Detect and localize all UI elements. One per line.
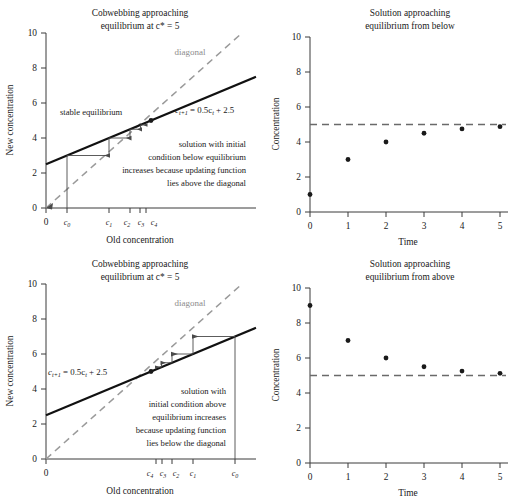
- panel-title-line1: Cobwebbing approaching: [92, 259, 189, 269]
- x-label-c0: c0: [232, 469, 239, 479]
- x-tick-label-0: 0: [308, 221, 313, 231]
- x-label-c0: c0: [64, 218, 71, 228]
- panel-title-line2: equilibrium at c* = 5: [101, 272, 180, 282]
- cobweb-arrow-1: [104, 153, 110, 158]
- x-tick-label-2: 2: [384, 472, 389, 482]
- data-point: [422, 364, 427, 369]
- equilibrium-point: [149, 118, 154, 123]
- y-tick-label-10: 10: [28, 279, 38, 289]
- data-point: [346, 338, 351, 343]
- y-axis-label: New concentration: [5, 84, 15, 155]
- data-point: [308, 303, 313, 308]
- x-tick-label-3: 3: [422, 472, 427, 482]
- annotation-line-5: lies below the diagonal: [147, 438, 227, 448]
- panel-title-line1: Solution approaching: [370, 8, 451, 18]
- x-tick-marks: [46, 208, 146, 213]
- x-label-c4: c4: [151, 218, 158, 228]
- y-tick-marks: [305, 288, 310, 463]
- y-axis-label: New concentration: [5, 335, 15, 406]
- x-label-c3: c3: [160, 469, 167, 479]
- y-tick-label-10: 10: [28, 28, 38, 38]
- diagonal-label: diagonal: [175, 298, 206, 308]
- x-tick-label-0: 0: [308, 472, 313, 482]
- data-point: [498, 371, 503, 376]
- cobweb-arrow-1: [192, 334, 199, 339]
- panel-title-line2: equilibrium at c* = 5: [101, 21, 180, 31]
- y-tick-label-2: 2: [296, 172, 301, 182]
- y-axis-label: Concentration: [271, 97, 281, 150]
- y-tick-label-4: 4: [296, 137, 301, 147]
- x-tick-label-zero: 0: [44, 468, 49, 478]
- x-tick-label-5: 5: [498, 472, 503, 482]
- data-point: [308, 192, 313, 197]
- y-tick-label-4: 4: [32, 133, 37, 143]
- x-tick-label-3: 3: [422, 221, 427, 231]
- annotation-line-1: solution with initial: [179, 139, 247, 149]
- x-tick-label-zero: 0: [44, 217, 49, 227]
- x-tick-label-4: 4: [460, 472, 465, 482]
- y-tick-label-0: 0: [32, 454, 37, 464]
- x-axis-label: Time: [398, 237, 417, 247]
- panel-title-line2: equilibrium from above: [365, 272, 454, 282]
- x-tick-marks: [310, 212, 500, 217]
- panel-bottom-left: Cobwebbing approaching equilibrium at c*…: [0, 251, 260, 502]
- data-point: [384, 140, 389, 145]
- y-tick-label-6: 6: [296, 353, 301, 363]
- diagonal-label: diagonal: [175, 47, 206, 57]
- panel-top-right: Solution approaching equilibrium from be…: [260, 0, 520, 251]
- x-tick-label-5: 5: [498, 221, 503, 231]
- x-label-c1: c1: [106, 218, 113, 228]
- figure-sheet: Cobwebbing approaching equilibrium at c*…: [0, 0, 520, 502]
- stable-equilibrium-label: stable equilibrium: [60, 107, 123, 117]
- y-tick-label-6: 6: [32, 349, 37, 359]
- data-point: [498, 124, 503, 129]
- x-axis-label: Old concentration: [106, 235, 174, 245]
- x-tick-label-1: 1: [346, 472, 351, 482]
- y-tick-label-4: 4: [32, 384, 37, 394]
- y-tick-label-8: 8: [296, 318, 301, 328]
- annotation-line-4: because updating function: [136, 425, 227, 435]
- data-point: [346, 157, 351, 162]
- scatter-points: [308, 124, 503, 197]
- data-point: [384, 356, 389, 361]
- cobweb-arrow-2: [171, 352, 178, 357]
- annotation-line-4: lies above the diagonal: [167, 178, 247, 188]
- x-label-c1: c1: [190, 469, 197, 479]
- y-tick-label-4: 4: [296, 388, 301, 398]
- panel-title-line1: Cobwebbing approaching: [92, 8, 189, 18]
- y-tick-label-2: 2: [296, 423, 301, 433]
- y-tick-label-6: 6: [32, 98, 37, 108]
- y-tick-label-8: 8: [32, 63, 37, 73]
- annotation-line-2: initial condition above: [149, 399, 227, 409]
- cobweb-arrow-3: [137, 127, 142, 131]
- data-point: [460, 369, 465, 374]
- y-tick-label-2: 2: [32, 419, 37, 429]
- equilibrium-point: [149, 369, 154, 374]
- x-tick-label-2: 2: [384, 221, 389, 231]
- x-tick-label-4: 4: [460, 221, 465, 231]
- x-label-c2: c2: [124, 218, 131, 228]
- y-tick-marks: [41, 33, 46, 208]
- x-label-c4: c4: [147, 469, 154, 479]
- y-tick-label-8: 8: [296, 67, 301, 77]
- panel-top-left: Cobwebbing approaching equilibrium at c*…: [0, 0, 260, 251]
- annotation-line-1: solution with: [181, 386, 227, 396]
- annotation-line-2: condition below equilibrium: [148, 152, 246, 162]
- y-tick-label-2: 2: [32, 168, 37, 178]
- x-label-c3: c3: [138, 218, 145, 228]
- x-axis-label: Time: [398, 488, 417, 498]
- data-point: [460, 126, 465, 131]
- y-tick-label-10: 10: [292, 283, 302, 293]
- data-point: [422, 131, 427, 136]
- y-tick-label-6: 6: [296, 102, 301, 112]
- panel-title-line2: equilibrium from below: [365, 21, 455, 31]
- y-tick-marks: [41, 284, 46, 459]
- scatter-points: [308, 303, 503, 376]
- x-tick-marks: [46, 459, 235, 464]
- cobweb-arrow-2: [126, 136, 132, 141]
- updating-function-equation: ct+1 = 0.5ct + 2.5: [48, 367, 108, 378]
- x-axis-label: Old concentration: [106, 486, 174, 496]
- y-axis-label: Concentration: [271, 348, 281, 401]
- cobweb-arrow-3: [161, 361, 167, 365]
- y-tick-label-0: 0: [32, 203, 37, 213]
